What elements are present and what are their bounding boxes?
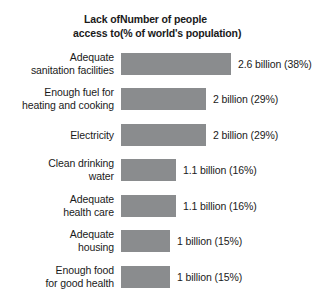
bar-row-label-line2: water bbox=[14, 170, 114, 183]
bar-rows: Adequatesanitation facilities2.6 billion… bbox=[0, 46, 332, 295]
bar-row-label-line1: Clean drinking bbox=[14, 157, 114, 170]
bar-value-label: 1.1 billion (16%) bbox=[183, 200, 257, 212]
bar-row-label: Clean drinkingwater bbox=[14, 157, 120, 183]
bar-row-label-line1: Adequate bbox=[14, 228, 114, 241]
bar bbox=[121, 53, 231, 75]
bar-row-label-line1: Adequate bbox=[14, 193, 114, 206]
bar-row: Adequatehousing1 billion (15%) bbox=[0, 224, 332, 260]
bar-row-label: Electricity bbox=[14, 128, 120, 141]
bar-value-label: 1 billion (15%) bbox=[177, 235, 242, 247]
bar bbox=[121, 124, 206, 146]
bar-row-label: Enough fuel forheating and cooking bbox=[14, 86, 120, 112]
bar-row-label: Adequatehealth care bbox=[14, 193, 120, 219]
bar bbox=[121, 195, 176, 217]
bar bbox=[121, 159, 176, 181]
left-column-header-line2: access to bbox=[26, 27, 120, 41]
bar-track: 1 billion (15%) bbox=[121, 266, 332, 288]
bar-row: Enough foodfor good health1 billion (15%… bbox=[0, 259, 332, 295]
bar-row-label-line1: Electricity bbox=[14, 128, 114, 141]
bar-row-label: Enough foodfor good health bbox=[14, 264, 120, 290]
bar bbox=[121, 230, 170, 252]
bar-row-label-line2: sanitation facilities bbox=[14, 64, 114, 77]
bar-value-label: 1 billion (15%) bbox=[177, 271, 242, 283]
bar-value-label: 2 billion (29%) bbox=[213, 93, 278, 105]
chart-header: Lack of access to Number of people (% of… bbox=[0, 13, 332, 45]
bar-row-label-line2: heating and cooking bbox=[14, 99, 114, 112]
right-column-header: Number of people (% of world's populatio… bbox=[120, 13, 325, 40]
bar-track: 1.1 billion (16%) bbox=[121, 195, 332, 217]
bar-track: 2 billion (29%) bbox=[121, 88, 332, 110]
bar-value-label: 2 billion (29%) bbox=[213, 129, 278, 141]
bar-track: 2 billion (29%) bbox=[121, 124, 332, 146]
bar-row-label-line2: for good health bbox=[14, 277, 114, 290]
bar-value-label: 2.6 billion (38%) bbox=[238, 58, 312, 70]
left-column-header-line1: Lack of bbox=[26, 13, 120, 27]
bar-row: Adequatehealth care1.1 billion (16%) bbox=[0, 188, 332, 224]
bar bbox=[121, 88, 206, 110]
right-column-header-line2: (% of world's population) bbox=[120, 27, 325, 41]
bar-row-label: Adequatesanitation facilities bbox=[14, 51, 120, 77]
bar-track: 1 billion (15%) bbox=[121, 230, 332, 252]
left-column-header: Lack of access to bbox=[26, 13, 120, 40]
bar bbox=[121, 266, 170, 288]
bar-row-label-line1: Adequate bbox=[14, 51, 114, 64]
bar-row: Enough fuel forheating and cooking2 bill… bbox=[0, 82, 332, 118]
bar-row-label: Adequatehousing bbox=[14, 228, 120, 254]
bar-row-label-line2: housing bbox=[14, 241, 114, 254]
bar-row: Electricity2 billion (29%) bbox=[0, 117, 332, 153]
bar-row-label-line2: health care bbox=[14, 206, 114, 219]
bar-row: Adequatesanitation facilities2.6 billion… bbox=[0, 46, 332, 82]
bar-chart: Lack of access to Number of people (% of… bbox=[0, 0, 332, 307]
bar-track: 2.6 billion (38%) bbox=[121, 53, 332, 75]
bar-row: Clean drinkingwater1.1 billion (16%) bbox=[0, 153, 332, 189]
bar-row-label-line1: Enough fuel for bbox=[14, 86, 114, 99]
right-column-header-line1: Number of people bbox=[120, 13, 325, 27]
bar-row-label-line1: Enough food bbox=[14, 264, 114, 277]
bar-track: 1.1 billion (16%) bbox=[121, 159, 332, 181]
bar-value-label: 1.1 billion (16%) bbox=[183, 164, 257, 176]
